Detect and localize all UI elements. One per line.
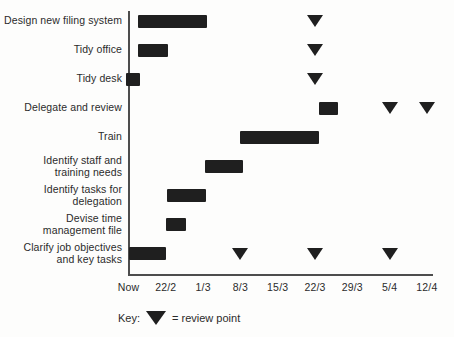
review-point-icon: [382, 102, 398, 114]
review-point-icon: [382, 248, 398, 260]
task-label: Delegate and review: [0, 94, 122, 123]
task-label: Clarify job objectives and key tasks: [0, 239, 122, 268]
task-label: Tidy office: [0, 36, 122, 65]
review-point-icon: [146, 311, 166, 325]
gantt-bar: [205, 160, 243, 173]
task-label: Devise time management file: [0, 210, 122, 239]
gantt-bar: [129, 247, 166, 260]
review-point-icon: [307, 44, 323, 56]
axis-tick-label: 22/2: [146, 281, 186, 293]
task-label: Train: [0, 123, 122, 152]
y-axis-line: [128, 11, 130, 275]
gantt-bar: [138, 44, 168, 57]
task-label: Identify staff and training needs: [0, 152, 122, 181]
axis-tick-label: 5/4: [370, 281, 410, 293]
axis-tick-label: 8/3: [220, 281, 260, 293]
task-label: Tidy desk: [0, 65, 122, 94]
review-point-icon: [307, 15, 323, 27]
gantt-bar: [240, 131, 319, 144]
key-description: = review point: [172, 312, 240, 324]
axis-tick-label: Now: [109, 281, 149, 293]
task-label: Design new filing system: [0, 7, 122, 36]
task-label: Identify tasks for delegation: [0, 181, 122, 210]
gantt-bar: [319, 102, 338, 115]
gantt-bar: [166, 218, 186, 231]
key-label: Key:: [118, 312, 140, 324]
gantt-chart: Now22/21/38/315/322/329/35/412/4Design n…: [0, 0, 454, 337]
x-axis-line: [128, 274, 433, 276]
gantt-bar: [167, 189, 206, 202]
review-point-icon: [307, 248, 323, 260]
axis-tick-label: 12/4: [407, 281, 447, 293]
review-point-icon: [419, 102, 435, 114]
axis-tick-label: 1/3: [183, 281, 223, 293]
gantt-chart-figure: Now22/21/38/315/322/329/35/412/4Design n…: [0, 0, 454, 337]
gantt-bar: [138, 15, 207, 28]
gantt-bar: [126, 73, 140, 86]
axis-tick-label: 22/3: [295, 281, 335, 293]
chart-key: Key: = review point: [118, 311, 240, 325]
axis-tick-label: 15/3: [258, 281, 298, 293]
review-point-icon: [232, 248, 248, 260]
axis-tick-label: 29/3: [332, 281, 372, 293]
review-point-icon: [307, 73, 323, 85]
